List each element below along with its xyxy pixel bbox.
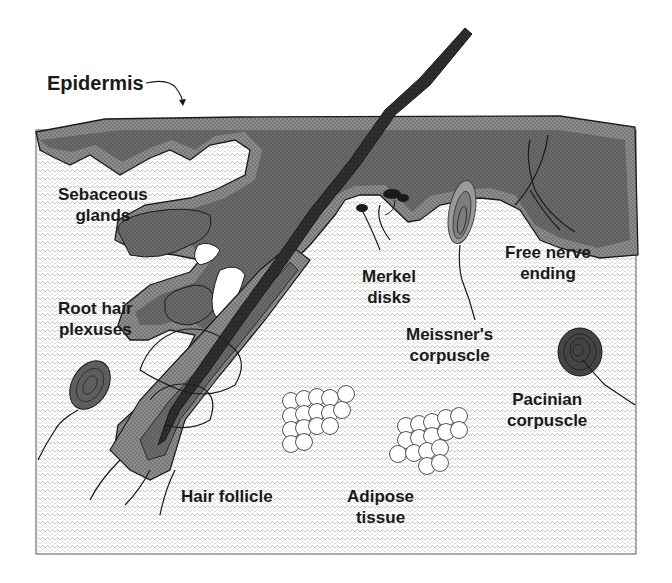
label-merkel-line2: disks xyxy=(362,287,416,308)
label-adipose-tissue: Adipose tissue xyxy=(347,486,414,528)
label-epidermis: Epidermis xyxy=(47,73,144,94)
label-root-hair-plexuses: Root hair plexuses xyxy=(58,298,133,340)
epidermis-arrow xyxy=(146,81,186,106)
label-meissner-line1: Meissner's xyxy=(406,324,493,345)
label-free-nerve-ending: Free nerve ending xyxy=(505,242,591,284)
label-merkel-disks: Merkel disks xyxy=(362,266,416,308)
label-free-nerve-line2: ending xyxy=(505,263,591,284)
label-pacinian-line2: corpuscle xyxy=(507,410,587,431)
label-sebaceous-glands: Sebaceous glands xyxy=(58,184,148,226)
label-root-hair-line1: Root hair xyxy=(58,298,133,319)
skin-diagram: Epidermis Sebaceous glands Root hair ple… xyxy=(0,0,672,583)
label-free-nerve-line1: Free nerve xyxy=(505,242,591,263)
label-sebaceous-line1: Sebaceous xyxy=(58,184,148,205)
label-adipose-line1: Adipose xyxy=(347,486,414,507)
label-sebaceous-line2: glands xyxy=(58,205,148,226)
label-hair-follicle: Hair follicle xyxy=(181,486,273,507)
label-merkel-line1: Merkel xyxy=(362,266,416,287)
label-meissner-line2: corpuscle xyxy=(406,345,493,366)
label-adipose-line2: tissue xyxy=(347,507,414,528)
label-pacinian-line1: Pacinian xyxy=(507,389,587,410)
label-root-hair-line2: plexuses xyxy=(58,319,133,340)
label-pacinian-corpuscle: Pacinian corpuscle xyxy=(507,389,587,431)
label-meissners-corpuscle: Meissner's corpuscle xyxy=(406,324,493,366)
